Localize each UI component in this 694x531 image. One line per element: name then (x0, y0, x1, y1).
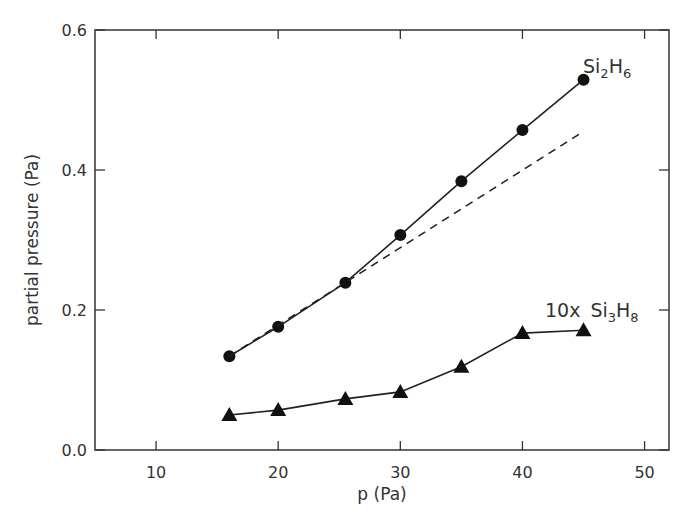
series-1 (221, 322, 591, 421)
y-tick-label: 0.6 (62, 21, 87, 40)
y-tick-label: 0.2 (62, 301, 87, 320)
label-si3h8: 10xSi3H8 (545, 299, 639, 325)
x-axis-label: p (Pa) (357, 484, 406, 504)
series-0 (223, 74, 589, 363)
y-tick-label: 0.0 (62, 441, 87, 460)
y-tick-label: 0.4 (62, 161, 87, 180)
data-point-circle (394, 229, 406, 241)
axis-tick-labels: 10203040500.00.20.40.6 (62, 21, 655, 482)
x-tick-label: 10 (146, 463, 166, 482)
x-tick-label: 40 (512, 463, 532, 482)
data-point-triangle (453, 359, 469, 373)
data-point-circle (339, 277, 351, 289)
y-axis-label: partial pressure (Pa) (22, 154, 42, 326)
chart: 10203040500.00.20.40.6 p (Pa) partial pr… (0, 0, 694, 531)
data-point-triangle (576, 322, 592, 336)
label-si2h6: Si2H6 (583, 55, 631, 81)
series-2 (229, 132, 583, 357)
x-tick-label: 20 (268, 463, 288, 482)
data-point-circle (455, 175, 467, 187)
x-tick-label: 30 (390, 463, 410, 482)
x-tick-label: 50 (634, 463, 654, 482)
axis-ticks (95, 30, 669, 450)
data-point-triangle (392, 384, 408, 398)
series-layer (221, 74, 591, 421)
plot-frame (95, 30, 669, 450)
data-point-circle (516, 124, 528, 136)
